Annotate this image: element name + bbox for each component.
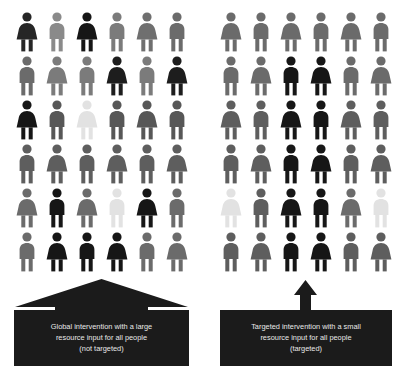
person-cell (368, 56, 394, 96)
person-male-icon (308, 12, 334, 52)
narrow-up-arrow-icon (218, 278, 393, 314)
person-female-icon (218, 12, 244, 52)
person-cell (308, 144, 334, 184)
person-female-icon (248, 232, 274, 272)
person-cell (74, 144, 100, 184)
person-cell (278, 12, 304, 52)
person-male-icon (104, 12, 130, 52)
person-male-icon (74, 232, 100, 272)
person-male-icon (308, 100, 334, 140)
person-cell (14, 12, 40, 52)
people-grid-global (12, 12, 192, 276)
person-cell (368, 232, 394, 272)
person-cell (248, 56, 274, 96)
person-female-icon (134, 100, 160, 140)
person-female-icon (218, 100, 244, 140)
person-female-icon (14, 12, 40, 52)
person-female-icon (308, 144, 334, 184)
person-cell (368, 12, 394, 52)
person-female-icon (134, 188, 160, 228)
person-cell (368, 188, 394, 228)
person-female-icon (308, 232, 334, 272)
person-cell (14, 56, 40, 96)
person-cell (44, 188, 70, 228)
person-cell (248, 188, 274, 228)
person-female-icon (44, 232, 70, 272)
person-female-icon (338, 100, 364, 140)
person-cell (164, 188, 190, 228)
person-cell (74, 100, 100, 140)
person-cell (134, 100, 160, 140)
person-female-icon (278, 12, 304, 52)
person-male-icon (44, 12, 70, 52)
person-cell (278, 232, 304, 272)
person-cell (218, 56, 244, 96)
person-female-icon (164, 56, 190, 96)
person-cell (338, 56, 364, 96)
person-male-icon (134, 232, 160, 272)
targeted-caption-box: Targeted intervention with a small resou… (220, 310, 392, 366)
caption-line-1: Global intervention with a large (20, 321, 183, 332)
people-grid-targeted (216, 12, 396, 276)
person-female-icon (104, 232, 130, 272)
caption-line-1: Targeted intervention with a small (226, 321, 386, 332)
person-cell (44, 100, 70, 140)
person-female-icon (104, 56, 130, 96)
person-cell (248, 144, 274, 184)
person-male-icon (218, 144, 244, 184)
person-cell (74, 12, 100, 52)
person-cell (104, 12, 130, 52)
person-female-icon (248, 56, 274, 96)
person-female-icon (14, 188, 40, 228)
person-cell (44, 144, 70, 184)
person-male-icon (248, 188, 274, 228)
person-male-icon (218, 232, 244, 272)
person-male-icon (338, 56, 364, 96)
person-male-icon (164, 12, 190, 52)
person-cell (14, 144, 40, 184)
person-cell (248, 232, 274, 272)
global-caption-box: Global intervention with a large resourc… (14, 310, 189, 366)
person-male-icon (134, 56, 160, 96)
person-male-icon (338, 144, 364, 184)
person-male-icon (308, 188, 334, 228)
person-male-icon (44, 100, 70, 140)
person-male-icon (74, 56, 100, 96)
person-cell (308, 12, 334, 52)
person-cell (164, 232, 190, 272)
person-female-icon (218, 188, 244, 228)
person-male-icon (14, 144, 40, 184)
person-cell (278, 188, 304, 228)
person-cell (278, 56, 304, 96)
person-cell (308, 100, 334, 140)
person-cell (14, 232, 40, 272)
person-cell (74, 188, 100, 228)
person-male-icon (278, 232, 304, 272)
person-cell (308, 56, 334, 96)
wide-up-arrow-icon (14, 278, 189, 314)
person-cell (338, 188, 364, 228)
person-cell (104, 188, 130, 228)
person-male-icon (368, 100, 394, 140)
person-female-icon (248, 144, 274, 184)
person-male-icon (104, 188, 130, 228)
person-cell (134, 144, 160, 184)
person-cell (74, 56, 100, 96)
person-male-icon (368, 188, 394, 228)
person-male-icon (164, 100, 190, 140)
person-female-icon (14, 100, 40, 140)
person-cell (164, 100, 190, 140)
person-cell (164, 12, 190, 52)
targeted-intervention-panel: Targeted intervention with a small resou… (204, 0, 407, 386)
person-cell (134, 188, 160, 228)
person-cell (164, 56, 190, 96)
person-female-icon (74, 100, 100, 140)
caption-line-2: resource input for all people (20, 332, 183, 343)
global-intervention-panel: Global intervention with a large resourc… (0, 0, 203, 386)
person-cell (74, 232, 100, 272)
person-cell (104, 144, 130, 184)
person-male-icon (134, 144, 160, 184)
person-cell (308, 232, 334, 272)
person-cell (134, 232, 160, 272)
person-female-icon (164, 232, 190, 272)
